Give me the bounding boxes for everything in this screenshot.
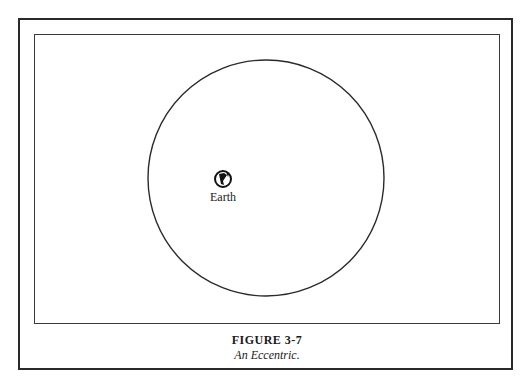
- earth-label: Earth: [205, 190, 241, 205]
- earth-icon: [215, 171, 231, 187]
- eccentric-circle: [148, 60, 384, 296]
- eccentric-diagram: [0, 0, 527, 387]
- figure-number: FIGURE 3-7: [34, 333, 500, 348]
- figure-title: An Eccentric.: [34, 348, 500, 363]
